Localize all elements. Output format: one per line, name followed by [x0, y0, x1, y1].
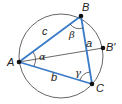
label-angle-beta: β	[68, 29, 75, 40]
label-b-prime: B'	[106, 41, 116, 53]
point-a	[17, 60, 22, 65]
point-b-prime	[101, 46, 106, 51]
label-a-vertex: A	[6, 56, 14, 68]
label-side-a: a	[86, 37, 92, 49]
label-c-vertex: C	[96, 82, 104, 94]
label-b-vertex: B	[82, 1, 89, 13]
point-c	[90, 82, 95, 87]
label-side-b: b	[51, 71, 57, 83]
label-side-c: c	[42, 25, 48, 37]
segment-a-bprime	[19, 48, 103, 62]
label-angle-gamma: γ	[75, 67, 81, 78]
label-angle-alpha: α	[39, 51, 46, 62]
angle-gamma-arc	[80, 72, 90, 80]
angle-beta-arc	[70, 24, 83, 29]
triangle-circle-diagram: A B C B' a b c α β γ	[0, 0, 122, 104]
point-b	[79, 14, 84, 19]
